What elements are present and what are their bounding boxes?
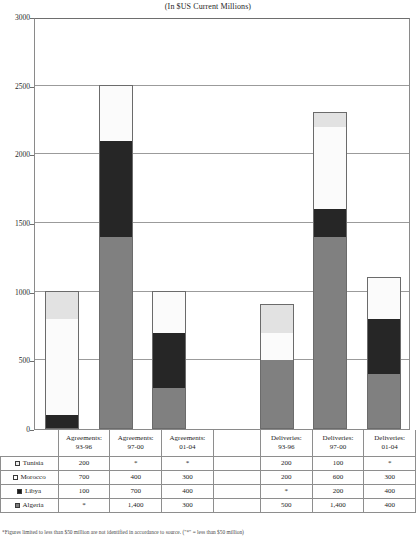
table-cell-value: * (110, 456, 162, 470)
table-row: Libya100700400*200400 (1, 484, 416, 498)
table-cell-value: 300 (162, 470, 214, 484)
legend-swatch-morocco-icon (13, 475, 18, 480)
chart-title: (In $US Current Millions) (0, 2, 416, 11)
legend-row-algeria: Algeria (1, 498, 59, 512)
bar-segment-tunisia (260, 304, 294, 332)
data-table: Agreements:93-96Agreements:97-00Agreemen… (0, 430, 416, 513)
column-header-line1: Agreements: (66, 434, 102, 442)
column-header-1: Agreements:93-96 (58, 430, 110, 456)
bar-segment-algeria (367, 373, 401, 429)
table-row: Tunisia200**200100* (1, 456, 416, 470)
legend-row-libya: Libya (1, 484, 59, 498)
table-cell-value: 200 (312, 484, 364, 498)
legend-label: Algeria (23, 501, 44, 509)
column-header-line1: Deliveries: (323, 434, 354, 442)
legend-row-morocco: Morocco (1, 470, 59, 484)
y-axis-tick-label: 1000 (0, 288, 30, 297)
bar-segment-libya (152, 332, 186, 388)
table-corner-cell (1, 430, 59, 456)
column-header-line1: Agreements: (118, 434, 154, 442)
bar-segment-morocco (260, 332, 294, 360)
bar-segment-algeria (313, 236, 347, 429)
bar-segment-algeria (99, 236, 133, 429)
bar-segment-tunisia (313, 112, 347, 127)
legend-label: Morocco (20, 473, 45, 481)
column-header-line2: 01-04 (364, 443, 415, 452)
table-cell-value: * (58, 498, 110, 512)
table-cell-value: 700 (58, 470, 110, 484)
legend-swatch-tunisia-icon (15, 461, 20, 466)
table-cell-value: * (162, 456, 214, 470)
column-header-line1: Deliveries: (374, 434, 405, 442)
bar-segment-morocco (45, 318, 79, 415)
table-cell-spacer (213, 456, 260, 470)
y-axis-tick-label: 3000 (0, 13, 30, 22)
table-cell-value: 400 (364, 498, 416, 512)
y-axis-tick-label: 1500 (0, 219, 30, 228)
column-header-line2: 93-96 (261, 443, 312, 452)
table-row: Morocco700400300200600300 (1, 470, 416, 484)
bar-segment-algeria (260, 359, 294, 429)
footnote: *Figures limited to less than $50 millio… (2, 529, 414, 536)
bar-segment-libya (367, 318, 401, 374)
table-cell-value: 1,400 (312, 498, 364, 512)
bar-segment-algeria (152, 387, 186, 429)
column-header-line2: 01-04 (162, 443, 213, 452)
column-header-7: Deliveries:01-04 (364, 430, 416, 456)
chart-page: (In $US Current Millions) 05001000150020… (0, 0, 416, 540)
legend-label: Tunisia (23, 459, 44, 467)
column-header-line1: Agreements: (170, 434, 206, 442)
legend-swatch-algeria-icon (15, 503, 20, 508)
bar-segment-libya (45, 414, 79, 429)
table-cell-value: 200 (260, 470, 312, 484)
table-cell-value: 400 (364, 484, 416, 498)
bar-segment-libya (313, 208, 347, 236)
column-header-line1: Deliveries: (271, 434, 302, 442)
plot-area (34, 18, 410, 430)
legend-swatch-libya-icon (17, 489, 22, 494)
table-cell-value: 100 (312, 456, 364, 470)
column-header-3: Agreements:01-04 (162, 430, 214, 456)
table-cell-spacer (213, 498, 260, 512)
table-cell-value: 400 (162, 484, 214, 498)
table-row: Algeria*1,4003005001,400400 (1, 498, 416, 512)
table-cell-value: 300 (162, 498, 214, 512)
table-cell-value: 600 (312, 470, 364, 484)
table-cell-value: 500 (260, 498, 312, 512)
column-header-line2: 97-00 (110, 443, 161, 452)
bar-segment-morocco (99, 85, 133, 141)
column-header-line2: 97-00 (313, 443, 364, 452)
table-cell-value: 1,400 (110, 498, 162, 512)
legend-row-tunisia: Tunisia (1, 456, 59, 470)
table-cell-spacer (213, 470, 260, 484)
table-cell-spacer (213, 484, 260, 498)
bar-segment-morocco (313, 126, 347, 209)
table-cell-value: 200 (260, 456, 312, 470)
table-cell-value: 100 (58, 484, 110, 498)
legend-label: Libya (25, 487, 41, 495)
y-axis-tick-label: 2500 (0, 82, 30, 91)
table-cell-value: * (364, 456, 416, 470)
column-header-spacer (213, 430, 260, 456)
column-header-5: Deliveries:93-96 (260, 430, 312, 456)
bar-segment-libya (99, 140, 133, 237)
bar-segment-morocco (152, 291, 186, 333)
bar-segment-morocco (367, 277, 401, 319)
table-cell-value: 300 (364, 470, 416, 484)
table-cell-value: 700 (110, 484, 162, 498)
y-axis-tick-label: 2000 (0, 150, 30, 159)
table-cell-value: * (260, 484, 312, 498)
column-header-2: Agreements:97-00 (110, 430, 162, 456)
table-cell-value: 400 (110, 470, 162, 484)
column-header-6: Deliveries:97-00 (312, 430, 364, 456)
table-body: Tunisia200**200100*Morocco70040030020060… (1, 456, 416, 512)
bar-segment-tunisia (45, 291, 79, 319)
bars-layer (35, 19, 409, 429)
y-axis-tick-label: 500 (0, 356, 30, 365)
table-header-row: Agreements:93-96Agreements:97-00Agreemen… (1, 430, 416, 456)
table-header: Agreements:93-96Agreements:97-00Agreemen… (1, 430, 416, 456)
table-cell-value: 200 (58, 456, 110, 470)
column-header-line2: 93-96 (59, 443, 110, 452)
